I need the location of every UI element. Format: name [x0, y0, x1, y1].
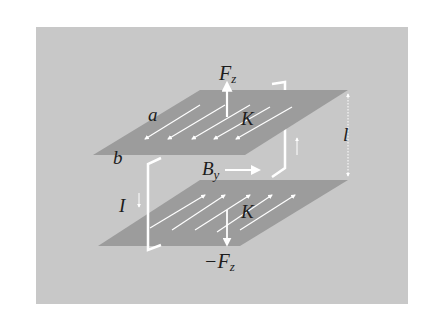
separation-label: l	[343, 124, 348, 145]
plate-dim-b-label: b	[113, 147, 123, 168]
surface-current-top-label: K	[240, 108, 255, 129]
plate-dim-a-label: a	[148, 104, 158, 125]
surface-current-bottom-label: K	[240, 201, 255, 222]
parallel-plates-diagram: Fz a b K K By I l −Fz	[0, 0, 441, 328]
